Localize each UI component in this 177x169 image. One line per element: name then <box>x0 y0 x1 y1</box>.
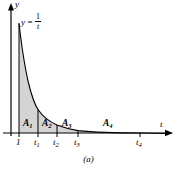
tick-label-t3: t3 <box>74 138 80 147</box>
region-label-a4-subscript: 4 <box>109 122 112 129</box>
tick-label-t2: t2 <box>53 138 59 147</box>
tick-label-t3-subscript: 3 <box>77 141 80 148</box>
region-label-a2-subscript: 2 <box>48 122 51 129</box>
curve-equation-label: y = 1 t <box>21 13 41 31</box>
y-axis-label: y <box>15 0 19 9</box>
region-label-a1-subscript: 1 <box>29 122 32 129</box>
tick-label-t4: t4 <box>136 138 142 147</box>
tick-label-t1-subscript: 1 <box>37 141 40 148</box>
region-label-a2: A2 <box>42 119 52 129</box>
t-axis-label: t <box>160 120 163 129</box>
equation-denominator: t <box>36 23 40 31</box>
figure-container: y t y = 1 t A1 A2 A3 A4 1 t1 t2 t3 t4 (a… <box>0 0 177 169</box>
tick-label-1: 1 <box>16 138 21 147</box>
equation-fraction: 1 t <box>35 13 41 31</box>
region-label-a3: A3 <box>62 119 72 129</box>
region-label-a3-subscript: 3 <box>68 122 71 129</box>
equation-equals-sign: = <box>28 18 33 27</box>
t-axis-arrowhead <box>165 130 173 137</box>
tick-label-t1: t1 <box>34 138 40 147</box>
tick-label-t2-subscript: 2 <box>56 141 59 148</box>
region-label-a4: A4 <box>103 119 113 129</box>
region-label-a1: A1 <box>23 119 33 129</box>
equation-numerator: 1 <box>35 13 41 21</box>
figure-caption: (a) <box>0 154 177 164</box>
tick-label-t4-subscript: 4 <box>139 141 142 148</box>
shaded-area-under-curve <box>19 24 140 134</box>
tick-label-1-text: 1 <box>16 137 21 147</box>
y-axis-arrowhead <box>8 3 14 11</box>
equation-lhs: y <box>21 18 25 27</box>
